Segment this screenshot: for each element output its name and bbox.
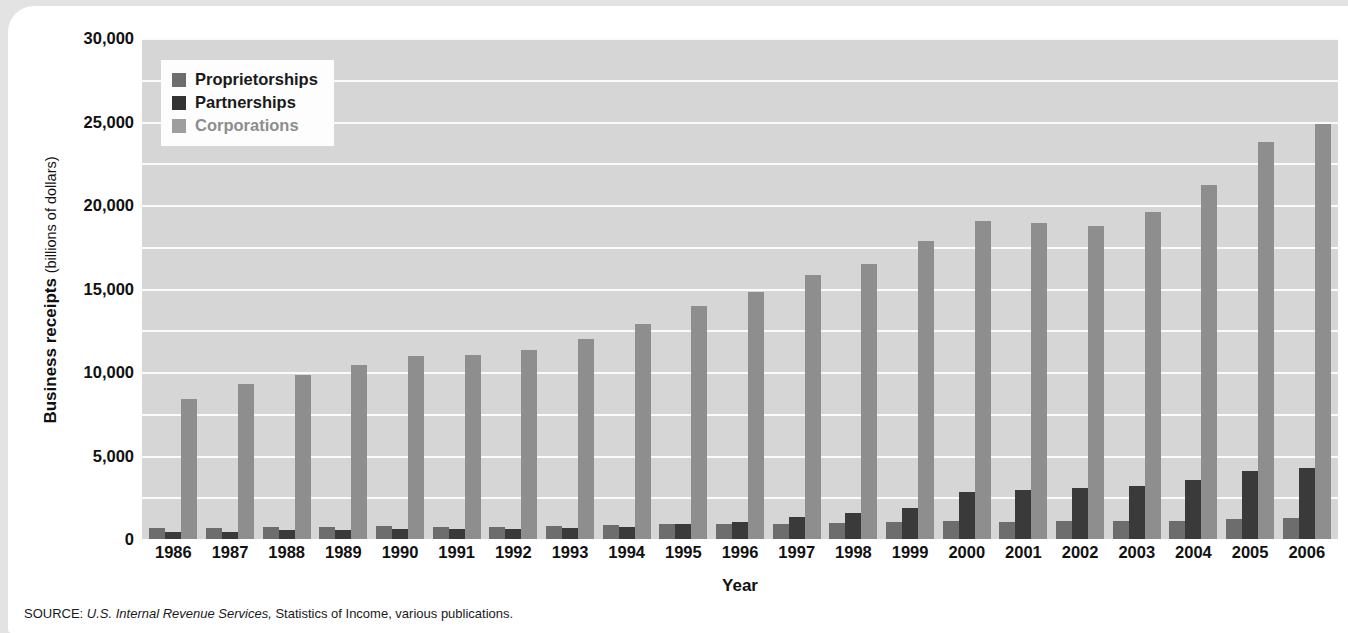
bar-partnerships-1998: [845, 513, 861, 539]
legend-label-partnerships: Partnerships: [195, 93, 296, 112]
bar-group: [542, 38, 599, 539]
bar-corporations-1994: [635, 324, 651, 539]
bar-partnerships-1989: [335, 530, 351, 539]
legend-swatch-proprietorships-icon: [172, 73, 186, 87]
bar-partnerships-2002: [1072, 488, 1088, 539]
x-axis-tick-label: 2005: [1222, 543, 1279, 567]
bar-group: [825, 38, 882, 539]
legend-item-proprietorships: Proprietorships: [172, 68, 318, 91]
bar-proprietorships-1992: [489, 527, 505, 539]
bar-proprietorships-2006: [1283, 518, 1299, 539]
bar-corporations-1992: [521, 350, 537, 539]
bar-partnerships-2001: [1015, 490, 1031, 539]
bar-group: [768, 38, 825, 539]
bar-proprietorships-1989: [319, 527, 335, 539]
bar-proprietorships-1990: [376, 526, 392, 539]
legend-item-partnerships: Partnerships: [172, 91, 318, 114]
x-axis-tick-label: 2001: [995, 543, 1052, 567]
bar-corporations-1988: [295, 375, 311, 539]
y-axis-tick-label: 30,000: [38, 29, 134, 48]
legend-label-proprietorships: Proprietorships: [195, 70, 318, 89]
y-axis-tick-label: 25,000: [38, 112, 134, 131]
x-axis-tick-label: 1996: [712, 543, 769, 567]
bar-group: [1278, 38, 1335, 539]
bar-corporations-2001: [1031, 223, 1047, 539]
bar-proprietorships-1994: [603, 525, 619, 539]
source-rest: Statistics of Income, various publicatio…: [272, 606, 513, 621]
bar-corporations-1987: [238, 384, 254, 539]
bar-group: [938, 38, 995, 539]
bar-proprietorships-1995: [659, 524, 675, 539]
bar-corporations-1995: [691, 306, 707, 539]
y-axis-tick-label: 0: [38, 530, 134, 549]
bar-proprietorships-2000: [943, 521, 959, 539]
bar-proprietorships-1996: [716, 524, 732, 539]
x-axis-tick-label: 2004: [1165, 543, 1222, 567]
bar-corporations-2000: [975, 221, 991, 539]
x-axis-tick-label: 1997: [768, 543, 825, 567]
bar-group: [1165, 38, 1222, 539]
bar-partnerships-1986: [165, 532, 181, 539]
bar-partnerships-1996: [732, 522, 748, 539]
source-prefix: SOURCE:: [24, 606, 87, 621]
bar-corporations-1991: [465, 355, 481, 539]
x-axis-tick-label: 2006: [1278, 543, 1335, 567]
bar-partnerships-1999: [902, 508, 918, 539]
x-axis-tick-label: 2000: [938, 543, 995, 567]
x-axis-ticks: 1986198719881989199019911992199319941995…: [142, 543, 1338, 567]
bar-partnerships-1992: [505, 529, 521, 539]
bar-partnerships-1995: [675, 524, 691, 539]
plot-area: Proprietorships Partnerships Corporation…: [142, 38, 1338, 539]
y-axis-tick-label: 15,000: [38, 279, 134, 298]
bar-partnerships-1997: [789, 517, 805, 539]
bar-corporations-1999: [918, 241, 934, 539]
bar-group: [882, 38, 939, 539]
bar-partnerships-2004: [1185, 480, 1201, 539]
legend-item-corporations: Corporations: [172, 114, 318, 137]
bar-partnerships-1991: [449, 529, 465, 539]
bar-group: [598, 38, 655, 539]
bar-proprietorships-2003: [1113, 521, 1129, 539]
bar-proprietorships-2001: [999, 522, 1015, 539]
x-axis-title: Year: [142, 576, 1338, 596]
bar-group: [1108, 38, 1165, 539]
bar-proprietorships-2005: [1226, 519, 1242, 539]
bar-proprietorships-1987: [206, 528, 222, 539]
legend-swatch-partnerships-icon: [172, 96, 186, 110]
x-axis-tick-label: 2003: [1108, 543, 1165, 567]
legend: Proprietorships Partnerships Corporation…: [161, 60, 334, 146]
bar-corporations-2006: [1315, 124, 1331, 539]
bar-proprietorships-1993: [546, 526, 562, 539]
bar-partnerships-1993: [562, 528, 578, 539]
bar-partnerships-1990: [392, 529, 408, 539]
bar-corporations-1996: [748, 292, 764, 539]
bar-corporations-2005: [1258, 142, 1274, 539]
bar-group: [485, 38, 542, 539]
bar-group: [428, 38, 485, 539]
figure-card: Business receipts (billions of dollars) …: [8, 6, 1348, 633]
x-axis-tick-label: 1990: [372, 543, 429, 567]
bar-corporations-1997: [805, 275, 821, 539]
x-axis-tick-label: 1992: [485, 543, 542, 567]
bar-partnerships-1987: [222, 532, 238, 539]
bar-proprietorships-1988: [263, 527, 279, 539]
bar-partnerships-2005: [1242, 471, 1258, 539]
bar-corporations-1993: [578, 339, 594, 539]
y-axis-tick-label: 5,000: [38, 446, 134, 465]
bar-corporations-1986: [181, 399, 197, 539]
bar-partnerships-2003: [1129, 486, 1145, 539]
bar-partnerships-1988: [279, 530, 295, 539]
legend-swatch-corporations-icon: [172, 119, 186, 133]
x-axis-tick-label: 1993: [542, 543, 599, 567]
bar-proprietorships-1991: [433, 527, 449, 539]
bar-proprietorships-2004: [1169, 521, 1185, 539]
x-axis-tick-label: 1994: [598, 543, 655, 567]
x-axis-tick-label: 1991: [428, 543, 485, 567]
y-axis-tick-label: 20,000: [38, 196, 134, 215]
bar-group: [712, 38, 769, 539]
y-axis-tick-label: 10,000: [38, 363, 134, 382]
bar-proprietorships-1999: [886, 522, 902, 539]
x-axis-tick-label: 1988: [258, 543, 315, 567]
bar-group: [372, 38, 429, 539]
bar-corporations-2003: [1145, 212, 1161, 539]
